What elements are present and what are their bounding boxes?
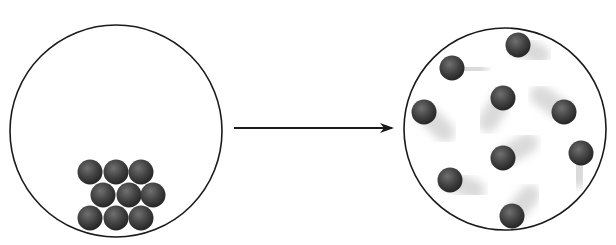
gas-particles-diagram [0, 0, 616, 245]
particle [117, 183, 142, 208]
particle [104, 206, 129, 231]
particle [491, 86, 516, 111]
particle [78, 206, 103, 231]
particle [129, 206, 154, 231]
left-container [10, 25, 222, 237]
particle [440, 56, 465, 81]
particle [500, 204, 525, 229]
particle [91, 183, 116, 208]
particle [141, 183, 166, 208]
particle [104, 160, 129, 185]
particle [438, 168, 463, 193]
right-container [404, 28, 606, 230]
particle [129, 160, 154, 185]
particle [78, 160, 103, 185]
particle [569, 141, 594, 166]
particle [491, 146, 516, 171]
particle [506, 33, 531, 58]
packed-particles [78, 160, 166, 231]
particle [552, 100, 577, 125]
particle [412, 100, 437, 125]
left-container-circle [10, 25, 222, 237]
